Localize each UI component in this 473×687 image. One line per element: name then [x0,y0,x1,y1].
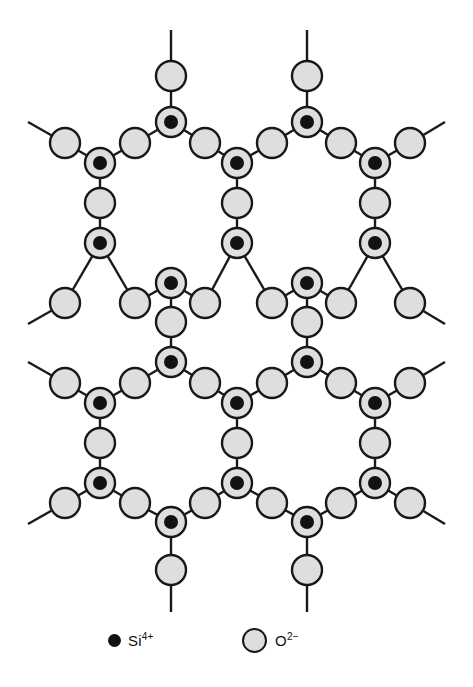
silicon-atom-core [300,355,314,369]
oxygen-atom [326,488,356,518]
silicon-atom [156,347,186,377]
legend-label-oxygen: O2− [275,632,299,649]
silicon-atom-core [93,396,107,410]
silicon-atom-core [230,156,244,170]
silica-structure-figure: Si4+ O2− [0,0,473,687]
silicon-atom-core [230,236,244,250]
oxygen-atom [190,288,220,318]
oxygen-atom [50,488,80,518]
silicon-atom-core [164,115,178,129]
silicon-atom [222,388,252,418]
oxygen-atom [190,128,220,158]
oxygen-atom [120,288,150,318]
silicon-atom [292,107,322,137]
oxygen-atom [326,368,356,398]
legend-item-oxygen: O2− [242,628,299,653]
oxygen-atom [395,288,425,318]
oxygen-atom [156,307,186,337]
silicon-atom [360,468,390,498]
silicon-atom-core [368,396,382,410]
oxygen-atom [222,428,252,458]
oxygen-atom [190,488,220,518]
silicon-charge: 4+ [142,631,154,642]
oxygen-atom [257,288,287,318]
oxygen-atom [85,188,115,218]
silicon-atom [360,228,390,258]
silicon-atom-core [164,515,178,529]
silicon-atom-core [300,115,314,129]
silicon-atom [156,268,186,298]
silicon-atom [156,107,186,137]
silicon-atom-core [230,396,244,410]
silicon-atom-core [300,276,314,290]
oxygen-atom [120,128,150,158]
silica-lattice-diagram [0,0,473,687]
oxygen-atom [395,128,425,158]
oxygen-atom [257,488,287,518]
oxygen-marker-icon [242,628,267,653]
oxygen-atom [257,368,287,398]
oxygen-atom [50,128,80,158]
silicon-atom [222,228,252,258]
oxygen-atom [85,428,115,458]
oxygen-atom [360,428,390,458]
silicon-atom-core [368,156,382,170]
oxygen-atom [395,368,425,398]
oxygen-atom [395,488,425,518]
silicon-atom [85,228,115,258]
silicon-atom [292,507,322,537]
silicon-marker-icon [108,634,121,647]
oxygen-atom [292,61,322,91]
oxygen-atom [326,128,356,158]
bond-lines-group [28,30,445,612]
silicon-atom-core [164,276,178,290]
silicon-atom-core [93,156,107,170]
oxygen-atom [292,307,322,337]
oxygen-atom [257,128,287,158]
oxygen-atom [190,368,220,398]
legend-item-silicon: Si4+ [108,632,154,649]
oxygen-atom [120,488,150,518]
oxygen-atom [156,61,186,91]
silicon-atom-core [93,476,107,490]
oxygen-atom [50,368,80,398]
silicon-atom-core [368,476,382,490]
silicon-atom [360,148,390,178]
silicon-atom [222,148,252,178]
oxygen-atom [292,555,322,585]
silicon-atom [85,388,115,418]
silicon-atom-core [93,236,107,250]
oxygen-atoms-group [50,61,425,585]
silicon-atom [292,347,322,377]
silicon-atom [222,468,252,498]
silicon-atoms-group [85,107,390,537]
legend: Si4+ O2− [0,628,473,668]
silicon-atom-core [164,355,178,369]
silicon-atom [360,388,390,418]
oxygen-atom [222,188,252,218]
silicon-atom-core [368,236,382,250]
silicon-atom-core [300,515,314,529]
oxygen-charge: 2− [287,631,299,642]
oxygen-atom [120,368,150,398]
silicon-atom-core [230,476,244,490]
silicon-atom [156,507,186,537]
oxygen-atom [156,555,186,585]
silicon-atom [85,148,115,178]
silicon-atom [292,268,322,298]
oxygen-atom [50,288,80,318]
oxygen-atom [360,188,390,218]
oxygen-atom [326,288,356,318]
legend-label-silicon: Si4+ [128,632,154,649]
silicon-atom [85,468,115,498]
